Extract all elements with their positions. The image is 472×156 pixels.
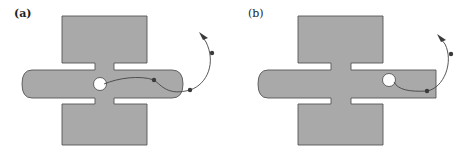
panel-b: (b) <box>248 7 453 145</box>
panel-a-label: (a) <box>14 7 32 20</box>
panel-b-label: (b) <box>248 7 264 20</box>
arrowhead-a <box>199 32 208 40</box>
hole-b <box>383 74 396 87</box>
arrowhead-b <box>437 34 446 42</box>
trajectory-point-a-1 <box>152 78 156 82</box>
cavity-shape-b <box>258 16 436 145</box>
trajectory-point-a-3 <box>210 51 214 55</box>
panel-a: (a) <box>14 7 214 145</box>
trajectory-point-b-2 <box>449 52 453 56</box>
trajectory-point-a-2 <box>188 88 192 92</box>
diagram: (a) (b) <box>0 0 472 156</box>
trajectory-point-b-1 <box>425 89 429 93</box>
